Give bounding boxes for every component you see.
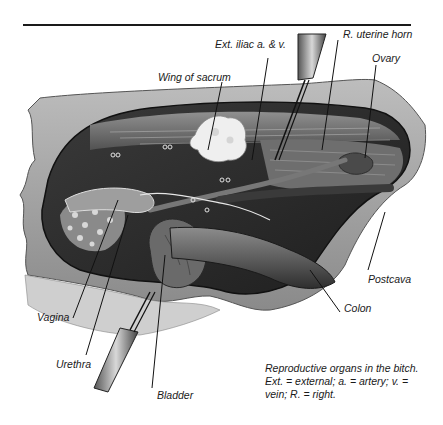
label-colon: Colon (344, 302, 371, 314)
label-ovary: Ovary (372, 52, 400, 64)
label-r-uterine-horn: R. uterine horn (343, 28, 412, 40)
label-ext-iliac: Ext. iliac a. & v. (215, 38, 286, 50)
caption-line-3: vein; R. = right. (265, 388, 440, 401)
label-urethra: Urethra (56, 358, 91, 370)
label-wing-of-sacrum: Wing of sacrum (158, 71, 231, 83)
label-bladder: Bladder (157, 389, 193, 401)
caption-line-2: Ext. = external; a. = artery; v. = (265, 375, 440, 388)
figure-caption: Reproductive organs in the bitch. Ext. =… (265, 362, 440, 401)
caption-line-1: Reproductive organs in the bitch. (265, 362, 440, 375)
label-postcava: Postcava (368, 273, 411, 285)
label-vagina: Vagina (37, 311, 69, 323)
